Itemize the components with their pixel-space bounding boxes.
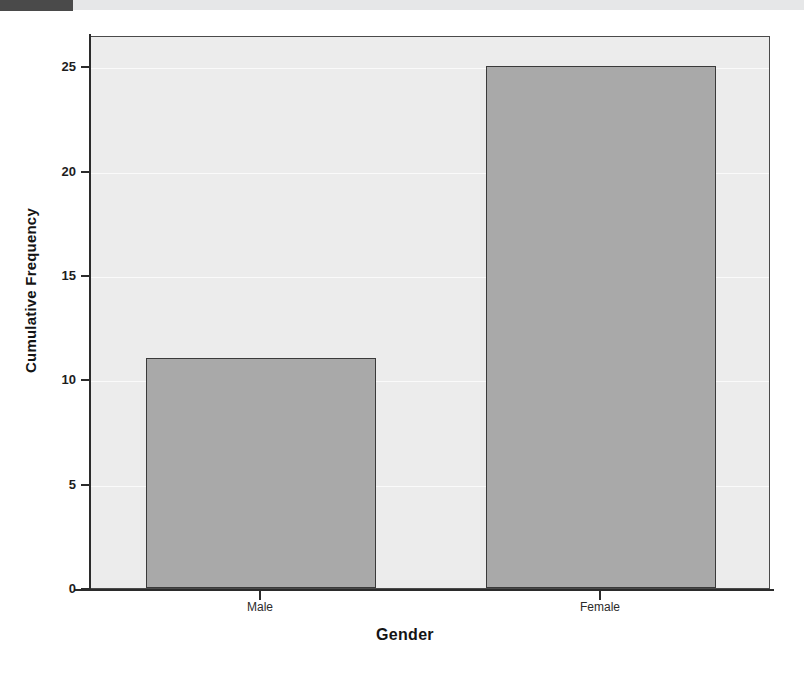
y-axis-title: Cumulative Frequency <box>22 191 39 391</box>
y-tick-label: 10 <box>46 373 76 387</box>
y-tick-mark <box>81 66 90 68</box>
y-tick-mark <box>81 171 90 173</box>
y-tick-label-text: 25 <box>46 60 76 73</box>
y-tick-label-text: 20 <box>46 165 76 178</box>
x-axis-title: Gender <box>305 626 505 644</box>
y-tick-label-text: 10 <box>46 373 76 386</box>
y-tick-label: 5 <box>46 478 76 492</box>
y-tick-mark <box>81 379 90 381</box>
y-tick-mark <box>81 484 90 486</box>
cumulative-frequency-bar-chart: 0510152025 MaleFemale Cumulative Frequen… <box>0 0 804 685</box>
y-tick-mark <box>81 588 90 590</box>
y-tick-label: 15 <box>46 269 76 283</box>
y-axis-line <box>89 34 91 591</box>
x-tick-label-male: Male <box>190 601 330 614</box>
x-tick-label-female: Female <box>530 601 670 614</box>
y-tick-label: 25 <box>46 60 76 74</box>
y-tick-label-text: 0 <box>46 582 76 595</box>
y-tick-label-text: 15 <box>46 269 76 282</box>
plot-area <box>90 36 770 589</box>
y-tick-label: 0 <box>46 582 76 596</box>
y-tick-label: 20 <box>46 165 76 179</box>
y-tick-label-text: 5 <box>46 478 76 491</box>
x-tick-mark <box>259 591 261 600</box>
bar-male <box>146 358 376 588</box>
bar-female <box>486 66 716 588</box>
x-tick-mark <box>599 591 601 600</box>
x-axis-line <box>74 589 774 591</box>
y-tick-mark <box>81 275 90 277</box>
